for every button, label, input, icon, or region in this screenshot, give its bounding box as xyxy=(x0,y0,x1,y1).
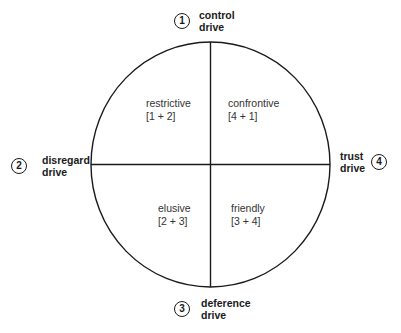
drive-2-label-line2: drive xyxy=(42,166,90,178)
quadrant-confrontive-combo: [4 + 1] xyxy=(228,110,279,123)
quadrant-elusive: elusive [2 + 3] xyxy=(158,202,191,227)
quadrant-confrontive: confrontive [4 + 1] xyxy=(228,97,279,122)
drive-3-label-line1: deference xyxy=(201,297,251,309)
quadrant-restrictive: restrictive [1 + 2] xyxy=(146,97,191,122)
drive-4-number-badge: 4 xyxy=(371,154,387,170)
drive-1-label-line1: control xyxy=(199,9,235,21)
quadrant-restrictive-name: restrictive xyxy=(146,97,191,110)
quadrant-elusive-combo: [2 + 3] xyxy=(158,215,191,228)
quadrant-restrictive-combo: [1 + 2] xyxy=(146,110,191,123)
drive-1-label-line2: drive xyxy=(199,21,235,33)
drive-2-label-line1: disregard xyxy=(42,154,90,166)
drive-3-number-badge: 3 xyxy=(174,301,190,317)
drive-quadrant-diagram: 1 control drive 2 disregard drive 3 defe… xyxy=(0,0,401,333)
quadrant-friendly-name: friendly xyxy=(231,202,265,215)
drive-3-label: deference drive xyxy=(201,297,251,321)
drive-3-label-line2: drive xyxy=(201,309,251,321)
quadrant-confrontive-name: confrontive xyxy=(228,97,279,110)
drive-2-label: disregard drive xyxy=(42,154,90,178)
quadrant-elusive-name: elusive xyxy=(158,202,191,215)
drive-1-number-badge: 1 xyxy=(174,13,190,29)
drive-2-number-badge: 2 xyxy=(11,158,27,174)
drive-1-label: control drive xyxy=(199,9,235,33)
drive-4-label-line1: trust xyxy=(340,150,365,162)
quadrant-friendly: friendly [3 + 4] xyxy=(231,202,265,227)
drive-4-label-line2: drive xyxy=(340,162,365,174)
drive-4-label: trust drive xyxy=(340,150,365,174)
quadrant-friendly-combo: [3 + 4] xyxy=(231,215,265,228)
